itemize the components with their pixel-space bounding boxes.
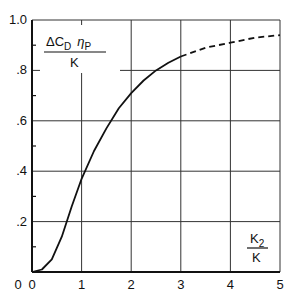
y-tick-label: .6	[16, 113, 27, 128]
ylabel-bg	[40, 25, 120, 73]
x-tick-label: 0	[28, 277, 35, 292]
curve-solid	[32, 57, 181, 273]
y-tick-label: .8	[16, 62, 27, 77]
x-tick-label: 2	[128, 277, 135, 292]
x-tick-label: 3	[177, 277, 184, 292]
y-tick-label: 1.0	[9, 12, 27, 27]
x-tick-label: 4	[227, 277, 234, 292]
xlabel-denominator: K	[252, 250, 261, 265]
origin-label: 0	[14, 277, 21, 292]
ylabel-denominator: K	[70, 55, 79, 70]
y-tick-label: .2	[16, 214, 27, 229]
chart: 012345.2.4.6.81.00ΔCDηPKK2K	[0, 0, 293, 297]
y-tick-label: .4	[16, 163, 27, 178]
x-tick-label: 1	[78, 277, 85, 292]
x-tick-label: 5	[276, 277, 283, 292]
